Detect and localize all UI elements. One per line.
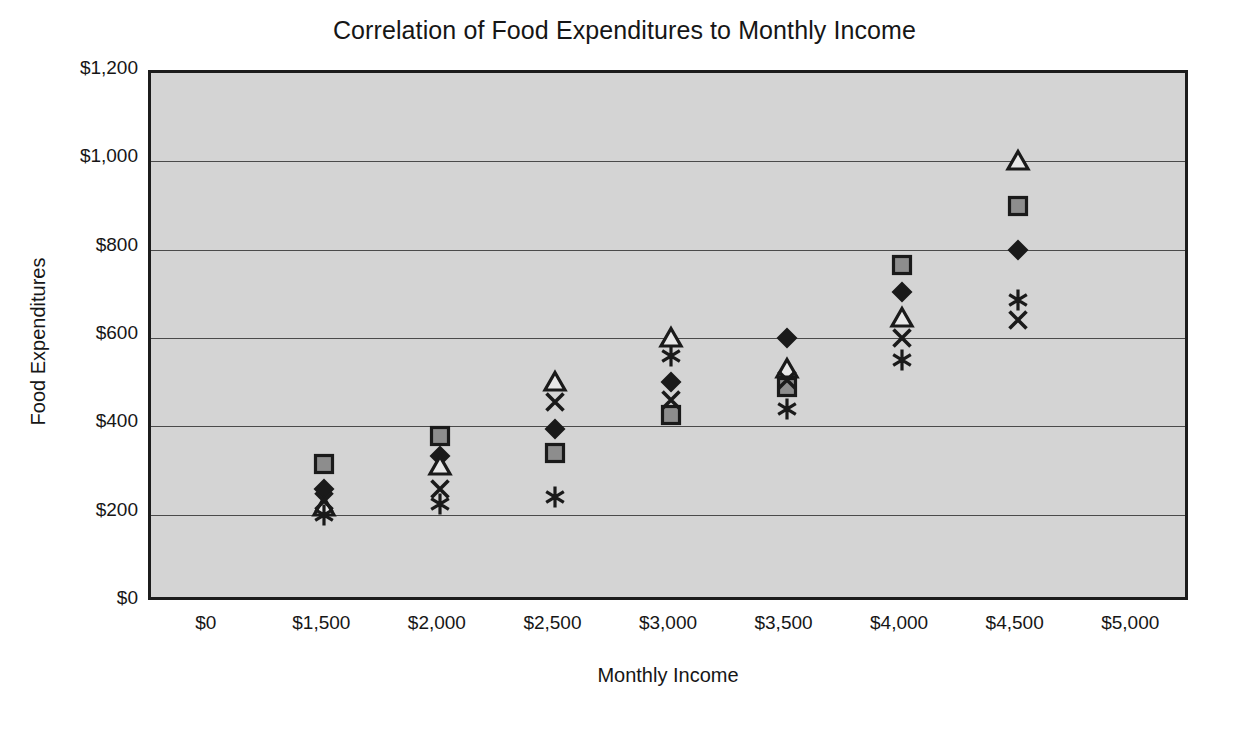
y-axis-title: Food Expenditures (27, 212, 50, 472)
plot-area (148, 70, 1188, 600)
gridline (151, 515, 1185, 516)
x-axis-tick-label: $5,000 (1060, 612, 1200, 634)
x-axis-tick-labels: $0$1,500$2,000$2,500$3,000$3,500$4,000$4… (148, 612, 1188, 642)
plot-inner (151, 73, 1185, 597)
chart-title: Correlation of Food Expenditures to Mont… (0, 16, 1249, 45)
x-axis-title: Monthly Income (148, 664, 1188, 687)
scatter-chart: Correlation of Food Expenditures to Mont… (0, 0, 1249, 736)
y-axis-title-container: Food Expenditures (16, 60, 56, 600)
